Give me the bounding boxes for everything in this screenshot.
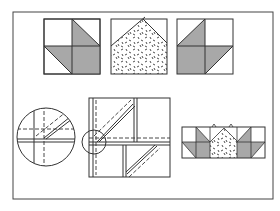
quilt-diagram: [0, 0, 280, 211]
print-block-center: [111, 17, 167, 74]
leaf-block-right: [177, 19, 233, 74]
stitching-diagram: [82, 98, 170, 177]
magnified-detail-circle: [17, 105, 80, 170]
assembled-row: [182, 124, 265, 158]
leaf-block-left: [44, 19, 100, 74]
